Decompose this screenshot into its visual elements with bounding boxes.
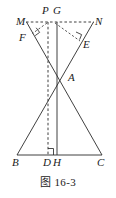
vertex-label-C: C bbox=[97, 157, 104, 168]
segment-M-to-C bbox=[27, 22, 103, 155]
vertex-label-N: N bbox=[95, 16, 102, 27]
vertex-label-M: M bbox=[16, 16, 25, 27]
geometry-figure: M P G N F E A B D H C 图 16-3 bbox=[0, 0, 116, 198]
vertex-label-D: D bbox=[43, 157, 51, 168]
vertex-label-G: G bbox=[53, 5, 61, 16]
figure-caption: 图 16-3 bbox=[0, 176, 116, 189]
vertex-label-P: P bbox=[42, 5, 49, 16]
vertex-label-A: A bbox=[68, 72, 75, 83]
vertex-label-B: B bbox=[12, 157, 19, 168]
vertex-label-E: E bbox=[83, 39, 90, 50]
right-angle-at-D bbox=[48, 149, 54, 156]
figure-drawing-canvas bbox=[0, 0, 116, 198]
vertex-label-H: H bbox=[53, 157, 61, 168]
vertex-label-F: F bbox=[19, 32, 26, 43]
